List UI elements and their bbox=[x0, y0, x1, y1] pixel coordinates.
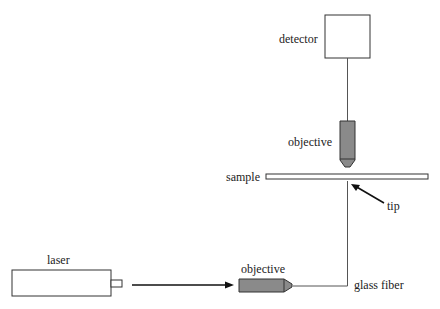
objective-top-label: objective bbox=[288, 135, 332, 149]
sample-label: sample bbox=[226, 170, 260, 184]
laser-aperture bbox=[111, 280, 122, 287]
objective-bottom-label: objective bbox=[241, 262, 285, 276]
laser-beam-arrow-head bbox=[225, 282, 234, 289]
glass-fiber-line bbox=[293, 181, 348, 286]
setup-diagram: detector objective sample tip laser obje… bbox=[0, 0, 440, 309]
tip-arrow bbox=[355, 186, 384, 203]
objective-top bbox=[340, 121, 355, 167]
glass-fiber-label: glass fiber bbox=[354, 278, 404, 292]
tip-label: tip bbox=[387, 199, 400, 213]
detector-label: detector bbox=[279, 32, 318, 46]
laser-label: laser bbox=[47, 253, 70, 267]
detector-box bbox=[325, 15, 370, 58]
sample-slide bbox=[266, 174, 428, 179]
laser-box bbox=[12, 270, 111, 296]
